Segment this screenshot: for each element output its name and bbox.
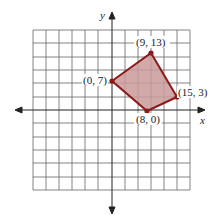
y-axis-arrow-down-icon [109,207,115,214]
coordinate-plane: x y (9, 13) (0, 7) (15, 3) (8, 0) [0,0,214,220]
y-axis-arrow-up-icon [109,12,115,19]
vertex-0-7 [109,78,114,83]
vertex-label-15-3: (15, 3) [178,86,208,99]
quadrilateral [112,53,177,111]
vertex-9-13 [148,50,153,55]
vertex-label-0-7: (0, 7) [83,74,107,87]
axes [15,12,205,214]
y-axis-label: y [99,9,105,21]
x-axis-arrow-left-icon [15,107,22,113]
vertex-label-8-0: (8, 0) [136,113,160,126]
x-axis-arrow-right-icon [198,107,205,113]
vertex-label-9-13: (9, 13) [136,36,166,49]
x-axis-label: x [199,114,205,126]
